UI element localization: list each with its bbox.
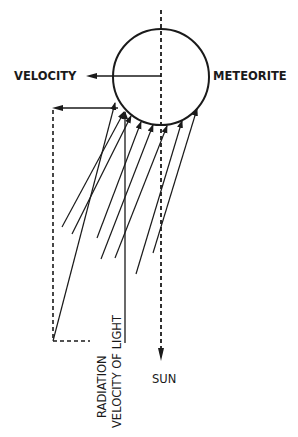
velocity-arrow: [86, 73, 161, 79]
meteorite-radiation-diagram: VELOCITY METEORITE SUN RADIATION VELOCIT…: [0, 0, 298, 437]
sun-arrow-icon: [158, 348, 164, 361]
velocity-of-light-label: VELOCITY OF LIGHT: [110, 314, 124, 428]
radiation-ray: [153, 109, 197, 253]
radiation-ray: [115, 126, 167, 258]
aberration-arrow: [52, 105, 118, 111]
radiation-ray: [136, 121, 182, 274]
radiation-label: RADIATION: [95, 355, 109, 418]
velocity-arrowhead-icon: [86, 73, 97, 79]
radiation-ray: [101, 125, 153, 259]
radiation-ray: [72, 116, 131, 234]
velocity-label: VELOCITY: [14, 69, 77, 83]
meteorite-label: METEORITE: [213, 69, 287, 83]
construction-dashed-lines: [53, 110, 90, 341]
radiation-ray: [53, 103, 115, 341]
radiation-ray: [62, 112, 124, 227]
sun-label: SUN: [152, 372, 176, 386]
